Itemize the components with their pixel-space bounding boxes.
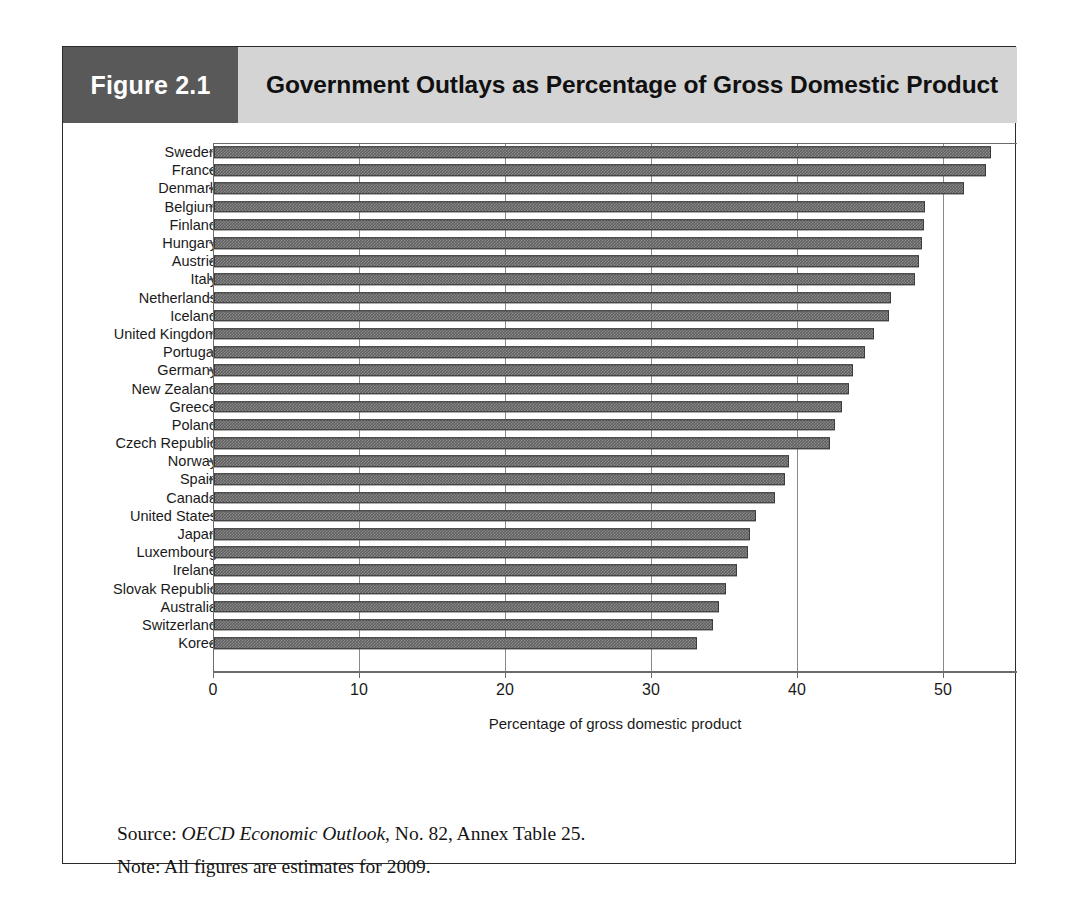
bar-category-label: Slovak Republic xyxy=(113,581,217,597)
bar-row: Netherlands xyxy=(63,289,1017,307)
bar xyxy=(214,328,874,340)
figure-number-label: Figure 2.1 xyxy=(90,71,210,100)
bar-row: Portugal xyxy=(63,343,1017,361)
figure-number-badge: Figure 2.1 xyxy=(63,47,238,123)
bar xyxy=(214,365,853,377)
bar xyxy=(214,619,713,631)
bar-row: Spain xyxy=(63,470,1017,488)
bar-row: Sweden xyxy=(63,143,1017,161)
bar xyxy=(214,255,919,267)
bar-row: Canada xyxy=(63,489,1017,507)
bar-row: France xyxy=(63,161,1017,179)
bar-row: Hungary xyxy=(63,234,1017,252)
bar xyxy=(214,492,775,504)
figure-frame: Figure 2.1 Government Outlays as Percent… xyxy=(62,46,1016,864)
source-prefix: Source: xyxy=(117,823,181,844)
bar xyxy=(214,528,750,540)
figure-header: Figure 2.1 Government Outlays as Percent… xyxy=(63,47,1017,123)
bar-category-label: Luxembourg xyxy=(136,544,217,560)
bar-row: Iceland xyxy=(63,307,1017,325)
x-axis-tick xyxy=(505,671,506,678)
source-publication: OECD Economic Outlook xyxy=(181,823,385,844)
bar-row: Luxembourg xyxy=(63,543,1017,561)
bar-row: United States xyxy=(63,507,1017,525)
bar-row: Ireland xyxy=(63,561,1017,579)
axis-x-line xyxy=(213,671,1017,673)
x-axis-tick xyxy=(359,671,360,678)
x-axis-tick-label: 10 xyxy=(350,681,368,699)
bar-row: Italy xyxy=(63,270,1017,288)
bar-row: Slovak Republic xyxy=(63,580,1017,598)
bar xyxy=(214,383,849,395)
bar xyxy=(214,419,835,431)
bar xyxy=(214,510,756,522)
bar xyxy=(214,237,922,249)
bar-row: Finland xyxy=(63,216,1017,234)
bar-category-label: Switzerland xyxy=(142,617,217,633)
bar-category-label: Czech Republic xyxy=(115,435,217,451)
x-axis-tick-label: 30 xyxy=(642,681,660,699)
plot-wrapper: SwedenFranceDenmarkBelgiumFinlandHungary… xyxy=(63,123,1017,865)
bar xyxy=(214,310,889,322)
bar-row: Denmark xyxy=(63,179,1017,197)
x-axis-tick-label: 0 xyxy=(209,681,218,699)
bar xyxy=(214,165,986,177)
bar-category-label: New Zealand xyxy=(132,381,217,397)
axis-top-line xyxy=(213,143,1017,144)
x-axis-tick xyxy=(651,671,652,678)
axis-y-line xyxy=(213,143,214,671)
bar-row: Korea xyxy=(63,634,1017,652)
bar-row: Greece xyxy=(63,398,1017,416)
bar xyxy=(214,183,964,195)
bar xyxy=(214,437,830,449)
bar xyxy=(214,346,865,358)
bar xyxy=(214,601,719,613)
bar-row: Australia xyxy=(63,598,1017,616)
bar xyxy=(214,201,925,213)
bar xyxy=(214,292,891,304)
x-axis-tick-label: 40 xyxy=(788,681,806,699)
bar xyxy=(214,146,991,158)
figure-title-band: Government Outlays as Percentage of Gros… xyxy=(238,47,1017,123)
source-suffix: , No. 82, Annex Table 25. xyxy=(385,823,585,844)
bar-row: Norway xyxy=(63,452,1017,470)
note-line: Note: All figures are estimates for 2009… xyxy=(117,856,977,878)
bar xyxy=(214,565,737,577)
figure-page: Figure 2.1 Government Outlays as Percent… xyxy=(0,0,1082,906)
bar xyxy=(214,637,697,649)
source-line: Source: OECD Economic Outlook, No. 82, A… xyxy=(117,823,977,845)
x-axis-tick xyxy=(943,671,944,678)
bar xyxy=(214,474,785,486)
bar-rows: SwedenFranceDenmarkBelgiumFinlandHungary… xyxy=(63,143,1017,671)
bar-row: Austria xyxy=(63,252,1017,270)
bar-row: Switzerland xyxy=(63,616,1017,634)
x-axis-tick-label: 50 xyxy=(934,681,952,699)
bar-row: New Zealand xyxy=(63,379,1017,397)
bar-row: Germany xyxy=(63,361,1017,379)
bar xyxy=(214,401,842,413)
bar xyxy=(214,583,726,595)
bar-row: Poland xyxy=(63,416,1017,434)
bar xyxy=(214,274,915,286)
x-axis-title: Percentage of gross domestic product xyxy=(213,715,1017,732)
bar-category-label: Netherlands xyxy=(139,290,217,306)
figure-notes: Source: OECD Economic Outlook, No. 82, A… xyxy=(117,823,977,889)
bar xyxy=(214,456,789,468)
bar-chart: SwedenFranceDenmarkBelgiumFinlandHungary… xyxy=(63,143,1017,703)
bar-row: Belgium xyxy=(63,198,1017,216)
bar xyxy=(214,546,748,558)
bar xyxy=(214,219,924,231)
bar-row: Japan xyxy=(63,525,1017,543)
bar-row: United Kingdom xyxy=(63,325,1017,343)
figure-title: Government Outlays as Percentage of Gros… xyxy=(266,71,998,99)
x-axis-tick-label: 20 xyxy=(496,681,514,699)
bar-category-label: United States xyxy=(130,508,217,524)
x-axis-tick xyxy=(213,671,214,678)
x-axis-tick xyxy=(797,671,798,678)
bar-row: Czech Republic xyxy=(63,434,1017,452)
bar-category-label: United Kingdom xyxy=(114,326,217,342)
